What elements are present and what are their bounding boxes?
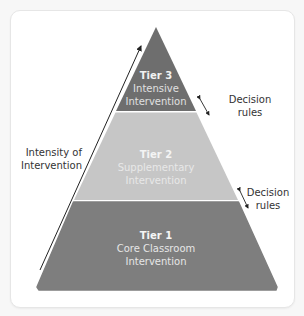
decision-rules-1-line2: rules bbox=[225, 106, 275, 119]
decision-rules-label-1: Decision rules bbox=[225, 93, 275, 119]
decision-rules-2-line2: rules bbox=[243, 199, 293, 212]
decision-rules-1-line1: Decision bbox=[225, 93, 275, 106]
tier3-label: Tier 3 Intensive Intervention bbox=[116, 69, 196, 108]
tier2-label: Tier 2 Supplementary Intervention bbox=[106, 148, 206, 187]
tier3-subtitle-line2: Intervention bbox=[116, 95, 196, 108]
decision-rules-2-line1: Decision bbox=[243, 186, 293, 199]
tier2-subtitle-line2: Intervention bbox=[106, 174, 206, 187]
tier2-subtitle-line1: Supplementary bbox=[106, 161, 206, 174]
tier3-subtitle-line1: Intensive bbox=[116, 82, 196, 95]
intensity-label-line1: Intensity of bbox=[12, 146, 82, 159]
tier3-title: Tier 3 bbox=[116, 69, 196, 82]
diagram-stage: Tier 3 Intensive Intervention Tier 2 Sup… bbox=[0, 0, 304, 316]
tier1-subtitle-line1: Core Classroom bbox=[96, 242, 216, 255]
tier2-title: Tier 2 bbox=[106, 148, 206, 161]
intensity-label: Intensity of Intervention bbox=[12, 146, 82, 172]
intensity-label-line2: Intervention bbox=[12, 159, 82, 172]
decision-arrow-icon-1 bbox=[200, 99, 209, 115]
tier1-label: Tier 1 Core Classroom Intervention bbox=[96, 229, 216, 268]
tier1-title: Tier 1 bbox=[96, 229, 216, 242]
decision-rules-label-2: Decision rules bbox=[243, 186, 293, 212]
tier1-subtitle-line2: Intervention bbox=[96, 255, 216, 268]
